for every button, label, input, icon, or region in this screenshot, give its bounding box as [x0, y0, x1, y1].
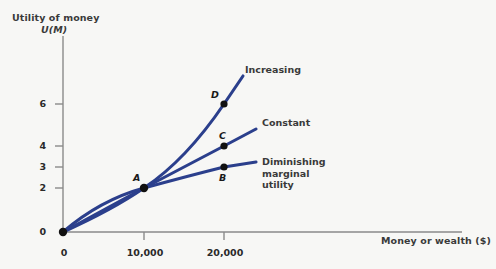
utility-of-money-chart: Utility of money U(M) Money or wealth ($… — [0, 0, 496, 269]
y-tick-label-2: 2 — [28, 182, 46, 193]
curve-diminishing — [63, 162, 256, 232]
point-origin — [59, 228, 67, 236]
point-B — [220, 163, 227, 170]
y-axis-title-line1: Utility of money — [12, 12, 99, 23]
y-axis-title-line2: U(M) — [41, 24, 67, 35]
curve-label-diminishing-line3: utility — [262, 179, 326, 191]
point-C — [220, 142, 227, 149]
curve-label-diminishing-line2: marginal — [262, 168, 326, 180]
point-D — [220, 100, 227, 107]
curve-label-diminishing: Diminishing marginal utility — [262, 156, 326, 191]
curve-label-increasing: Increasing — [245, 64, 301, 76]
x-tick-label-0: 0 — [56, 247, 72, 258]
chart-canvas — [0, 0, 496, 269]
x-axis-title: Money or wealth ($) — [381, 235, 491, 246]
curve-label-constant: Constant — [262, 117, 310, 129]
point-label-A: A — [133, 172, 140, 183]
y-tick-label-6: 6 — [28, 98, 46, 109]
y-tick-label-0: 0 — [28, 226, 46, 237]
y-axis-title-u: U( — [41, 24, 53, 35]
x-tick-label-20000: 20,000 — [195, 247, 255, 258]
point-A — [140, 184, 148, 192]
x-tick-label-10000: 10,000 — [115, 247, 175, 258]
point-label-B: B — [219, 172, 226, 183]
y-axis-title-paren: ) — [63, 24, 67, 35]
point-label-C: C — [219, 130, 226, 141]
y-tick-label-3: 3 — [28, 161, 46, 172]
y-tick-label-4: 4 — [28, 140, 46, 151]
curve-label-diminishing-line1: Diminishing — [262, 156, 326, 168]
y-axis-title-m: M — [53, 24, 63, 35]
point-label-D: D — [211, 89, 219, 100]
